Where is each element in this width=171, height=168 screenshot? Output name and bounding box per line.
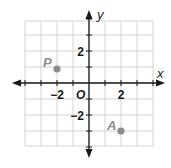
x-axis-left-arrow-icon [12, 80, 21, 87]
point-p-label: P [43, 55, 52, 70]
point-p [53, 65, 60, 72]
coordinate-plane: y x O −2 2 2 −2 P A [0, 0, 171, 168]
axes [12, 10, 165, 158]
x-tick-label-neg2: −2 [50, 88, 64, 102]
point-a-label: A [106, 118, 116, 133]
y-axis-bottom-arrow-icon [86, 149, 93, 158]
y-axis-label: y [96, 7, 105, 22]
x-axis-label: x [156, 66, 164, 81]
x-tick-label-2: 2 [118, 88, 125, 102]
point-a [117, 127, 124, 134]
y-tick-label-neg2: −2 [70, 109, 84, 123]
y-tick-label-2: 2 [77, 45, 84, 59]
origin-label: O [76, 88, 86, 102]
y-axis-top-arrow-icon [86, 10, 93, 19]
